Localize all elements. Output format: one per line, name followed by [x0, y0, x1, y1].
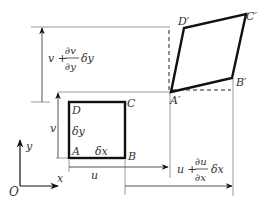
svg-text:u +: u +	[177, 163, 197, 176]
dim-label-v: v	[50, 122, 57, 135]
origin-label-o: O	[9, 185, 19, 199]
vertex-label-a: A	[71, 145, 80, 158]
svg-text:∂x: ∂x	[195, 172, 206, 183]
vertex-label-c-prime: C′	[246, 10, 257, 23]
svg-text:δx: δx	[211, 163, 225, 176]
vertex-label-b-prime: B′	[235, 76, 247, 89]
vertex-label-d-prime: D′	[177, 15, 190, 28]
vertex-label-d: D	[71, 104, 81, 117]
axis-label-x: x	[57, 172, 64, 185]
dim-label-u: u	[91, 169, 98, 182]
dim-label-v-plus: v + ∂v ∂y δy	[48, 45, 95, 72]
dim-label-u-plus: u + ∂u ∂x δx	[177, 156, 225, 183]
svg-text:∂u: ∂u	[195, 156, 207, 167]
svg-text:∂y: ∂y	[65, 61, 76, 72]
vertex-label-c: C	[127, 97, 136, 110]
side-label-dy: δy	[72, 125, 86, 138]
svg-text:∂v: ∂v	[65, 45, 76, 56]
svg-text:δy: δy	[81, 52, 95, 65]
deformation-diagram: D C A B δy δx A′ B′ C′ D′ v u v + ∂v ∂y …	[0, 0, 259, 210]
side-label-dx: δx	[95, 145, 109, 158]
vertex-label-b: B	[127, 150, 136, 163]
vertex-label-a-prime: A′	[169, 94, 181, 107]
axis-label-y: y	[25, 140, 33, 153]
